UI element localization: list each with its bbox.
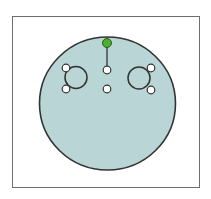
left-eye-bottom-handle[interactable] [62, 85, 70, 93]
left-eye-top-handle[interactable] [62, 64, 70, 72]
center-top-handle[interactable] [103, 66, 111, 74]
right-eye-top-handle[interactable] [147, 64, 155, 72]
center-bottom-handle[interactable] [103, 85, 111, 93]
shape-canvas [0, 0, 211, 199]
rotate-handle-icon[interactable] [103, 39, 112, 48]
right-eye-bottom-handle[interactable] [147, 86, 155, 94]
